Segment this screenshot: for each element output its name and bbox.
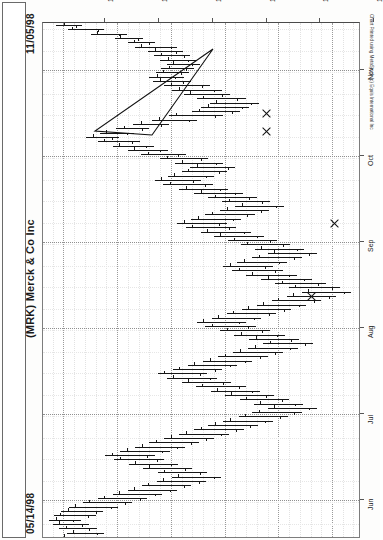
- price-tick-label: 115: [376, 0, 383, 2]
- annotation-layer: [43, 23, 359, 537]
- ohlc-close-tick: [88, 537, 89, 538]
- end-date-label: 11/05/98: [20, 13, 38, 54]
- price-axis: 140135130125120115: [42, 0, 360, 22]
- x-mark-signal-3: [329, 218, 340, 229]
- date-tick-label: Aug: [367, 326, 374, 338]
- x-mark-signal-4: [306, 291, 317, 302]
- date-tick-label: Sep: [367, 240, 374, 252]
- price-tick-label: 130: [215, 0, 222, 2]
- start-date-text: 05/14/98: [25, 493, 36, 534]
- start-date-label: 05/14/98: [20, 493, 38, 534]
- date-tick-label: Jun: [367, 499, 374, 510]
- price-tick-label: 120: [322, 0, 329, 2]
- date-tick: [360, 241, 364, 242]
- date-tick: [360, 499, 364, 500]
- date-tick: [360, 69, 364, 70]
- date-tick: [360, 327, 364, 328]
- date-tick: [360, 413, 364, 414]
- price-tick-label: 140: [107, 0, 114, 2]
- price-tick-label: 125: [269, 0, 276, 2]
- date-tick: [360, 155, 364, 156]
- price-tick-label: 135: [161, 0, 168, 2]
- x-mark-signal-2: [261, 126, 272, 137]
- x-mark-signal-1: [261, 108, 272, 119]
- software-credit-text: Chart Printed using MetaStock (c) Equis …: [369, 14, 374, 130]
- triangle-pattern-annotation: [43, 23, 360, 538]
- end-date-text: 11/05/98: [25, 13, 36, 54]
- plot-area: [42, 22, 360, 538]
- date-tick-label: Jul: [367, 415, 374, 424]
- date-tick-label: Oct: [367, 155, 374, 166]
